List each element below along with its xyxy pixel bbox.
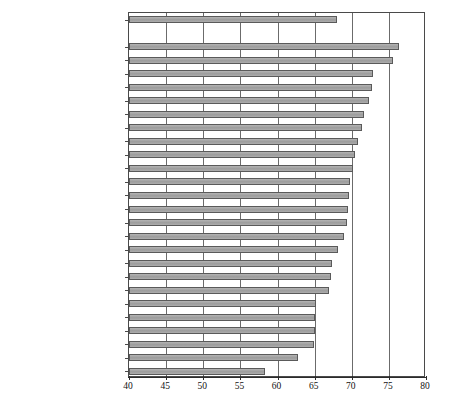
y-tick — [125, 304, 129, 305]
bar-row — [129, 189, 426, 203]
y-tick — [125, 290, 129, 291]
bar-kristianstad — [129, 273, 331, 280]
bar-bor-s — [129, 97, 369, 104]
bar-row — [129, 283, 426, 297]
y-tick — [125, 371, 129, 372]
bar-halmstad — [129, 219, 347, 226]
y-tick — [125, 182, 129, 183]
y-tick — [125, 209, 129, 210]
bar-ume- — [129, 84, 372, 91]
x-tick-label-55: 55 — [235, 381, 245, 391]
bar-lule-boden — [129, 57, 393, 64]
bar-row — [129, 94, 426, 108]
bar-uddevalla — [129, 260, 332, 267]
y-tick — [125, 344, 129, 345]
y-tick — [125, 141, 129, 142]
bar-row — [129, 121, 426, 135]
bar-row — [129, 351, 426, 365]
bar-row — [129, 67, 426, 81]
bar-g-vle-sandviken — [129, 165, 353, 172]
bar-row — [129, 13, 426, 27]
bar-sundsvall — [129, 111, 364, 118]
bar-row — [129, 337, 426, 351]
bar-chart: 404550556065707580SwedenÖstersundLuleå/B… — [0, 0, 452, 409]
y-tick — [125, 223, 129, 224]
y-tick — [125, 277, 129, 278]
bar-sweden — [129, 16, 337, 23]
y-tick — [125, 331, 129, 332]
x-axis-line — [128, 377, 426, 378]
bar-helsingborg-landskrona — [129, 354, 298, 361]
bar-row — [129, 108, 426, 122]
y-tick — [125, 20, 129, 21]
x-tick-label-80: 80 — [420, 381, 430, 391]
bar-uppsala — [129, 178, 350, 185]
bar-row — [129, 135, 426, 149]
bar-row — [129, 81, 426, 95]
x-tick-label-70: 70 — [346, 381, 356, 391]
bar-eskilstuna — [129, 246, 338, 253]
y-tick — [125, 317, 129, 318]
bar--rebro — [129, 341, 314, 348]
y-tick — [125, 114, 129, 115]
bar-borl-nge-falun — [129, 206, 348, 213]
x-tick-label-65: 65 — [309, 381, 319, 391]
y-tick — [125, 87, 129, 88]
y-tick — [125, 60, 129, 61]
bar-kalmar-nybro — [129, 138, 358, 145]
bar-row — [129, 202, 426, 216]
bar-row — [129, 216, 426, 230]
y-tick — [125, 358, 129, 359]
y-tick — [125, 250, 129, 251]
bar--stersund — [129, 43, 399, 50]
x-tick-label-50: 50 — [198, 381, 208, 391]
bar-v-ster-s — [129, 192, 349, 199]
bar-malm-lund-trelleborg — [129, 368, 265, 375]
bar-j-nk-ping — [129, 233, 344, 240]
plot-area — [128, 12, 425, 377]
x-tick-80 — [426, 376, 427, 380]
bar-row — [129, 243, 426, 257]
bar-row — [129, 270, 426, 284]
y-tick — [125, 101, 129, 102]
bar-karlstad — [129, 327, 315, 334]
bar-row — [129, 324, 426, 338]
bar-row — [129, 162, 426, 176]
bar-row — [129, 175, 426, 189]
bar-gothenburg — [129, 300, 316, 307]
x-tick-label-45: 45 — [160, 381, 170, 391]
y-tick — [125, 74, 129, 75]
y-tick — [125, 47, 129, 48]
x-tick-label-60: 60 — [272, 381, 282, 391]
bar-row — [129, 40, 426, 54]
y-tick — [125, 128, 129, 129]
bar-row — [129, 310, 426, 324]
bar-row — [129, 148, 426, 162]
bar-row — [129, 297, 426, 311]
y-tick — [125, 168, 129, 169]
y-tick — [125, 195, 129, 196]
bar-trollh-ttan-v-nersborg — [129, 151, 355, 158]
bar-row — [129, 54, 426, 68]
bar-link-ping — [129, 314, 315, 321]
y-tick — [125, 236, 129, 237]
bar-row — [129, 229, 426, 243]
bar-norrk-ping — [129, 287, 329, 294]
bar-v-xj- — [129, 70, 373, 77]
bar-row — [129, 364, 426, 378]
y-tick — [125, 155, 129, 156]
bar-stockholm-s-dert-lje — [129, 124, 362, 131]
y-tick — [125, 263, 129, 264]
x-tick-label-75: 75 — [383, 381, 393, 391]
bar-row — [129, 256, 426, 270]
x-tick-label-40: 40 — [123, 381, 133, 391]
